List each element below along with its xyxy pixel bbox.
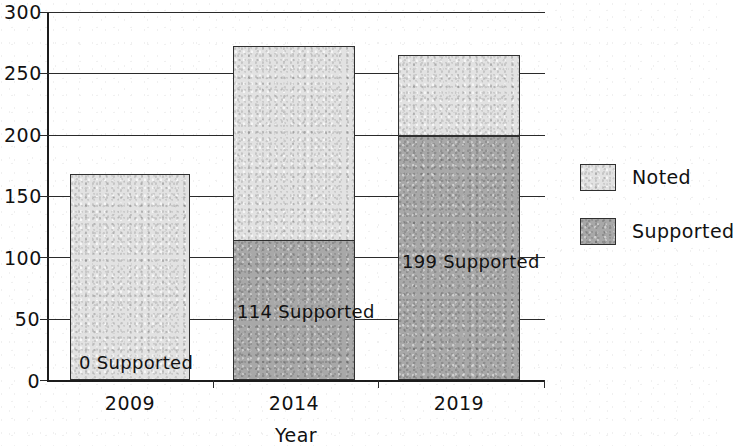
bar-2019-data-label: 199 Supported	[402, 253, 540, 271]
y-tick-mark-100	[40, 257, 47, 258]
y-axis-tick-labels: 300 250 200 150 100 50 0	[0, 0, 40, 446]
chart-legend: Noted Supported	[580, 150, 717, 258]
y-tick-label-250: 250	[4, 64, 40, 83]
x-tick-mark-3	[544, 380, 545, 388]
x-tick-label-2009: 2009	[70, 392, 190, 414]
x-tick-mark-1	[213, 380, 214, 388]
bar-2009-noted-segment[interactable]	[70, 174, 190, 380]
y-tick-mark-150	[40, 196, 47, 197]
x-axis-baseline	[47, 380, 545, 382]
y-tick-label-200: 200	[4, 126, 40, 145]
y-tick-mark-50	[40, 319, 47, 320]
x-tick-label-2019: 2019	[398, 392, 520, 414]
legend-item-supported[interactable]: Supported	[580, 204, 717, 258]
y-tick-mark-0	[40, 380, 47, 381]
bar-2019-noted-segment[interactable]	[398, 55, 520, 136]
gridline-300	[47, 12, 545, 13]
bar-2014-noted-segment[interactable]	[233, 46, 355, 241]
y-tick-label-150: 150	[4, 187, 40, 206]
x-axis-title: Year	[47, 424, 545, 446]
y-tick-label-300: 300	[4, 3, 40, 22]
x-tick-label-2014: 2014	[233, 392, 355, 414]
y-tick-label-0: 0	[4, 372, 40, 391]
y-tick-mark-250	[40, 73, 47, 74]
legend-swatch-noted-icon	[580, 164, 616, 191]
legend-label-supported: Supported	[632, 220, 734, 242]
bar-2009-data-label: 0 Supported	[79, 354, 193, 372]
y-tick-mark-300	[40, 12, 47, 13]
y-tick-mark-200	[40, 135, 47, 136]
y-tick-label-100: 100	[4, 249, 40, 268]
legend-item-noted[interactable]: Noted	[580, 150, 717, 204]
y-tick-label-50: 50	[4, 310, 40, 329]
bar-2014-data-label: 114 Supported	[237, 303, 375, 321]
legend-swatch-supported-icon	[580, 218, 616, 245]
x-tick-mark-2	[378, 380, 379, 388]
plot-area: 0 Supported 114 Supported 199 Supported	[47, 12, 545, 380]
legend-label-noted: Noted	[632, 166, 691, 188]
